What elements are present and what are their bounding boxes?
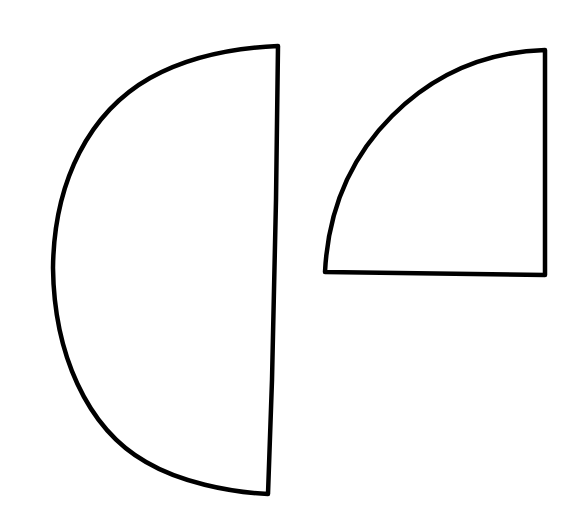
semicircle-shape <box>53 46 278 494</box>
quarter-circle-shape <box>325 50 545 275</box>
diagram-canvas <box>0 0 570 527</box>
